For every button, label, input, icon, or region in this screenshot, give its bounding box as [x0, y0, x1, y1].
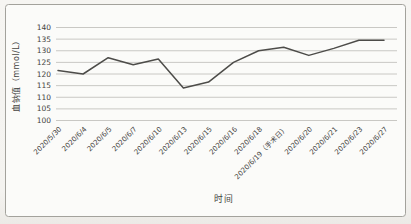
blood-sodium-line-chart: 1401351301251201151101051002020/5/302020…: [0, 0, 411, 224]
y-tick-label: 120: [37, 70, 52, 79]
y-tick-label: 135: [37, 35, 52, 44]
x-axis-title: 时间: [214, 193, 235, 204]
y-axis-title: 血钠值（mmol/L）: [11, 36, 21, 111]
chart-frame: [6, 5, 406, 217]
y-tick-label: 125: [37, 58, 52, 67]
y-tick-label: 130: [37, 46, 52, 55]
scanned-chart-page: 1401351301251201151101051002020/5/302020…: [0, 0, 411, 224]
y-tick-label: 100: [37, 116, 52, 125]
y-tick-label: 105: [37, 104, 52, 113]
y-tick-label: 110: [37, 93, 52, 102]
y-tick-label: 115: [37, 81, 52, 90]
y-tick-label: 140: [37, 23, 52, 32]
